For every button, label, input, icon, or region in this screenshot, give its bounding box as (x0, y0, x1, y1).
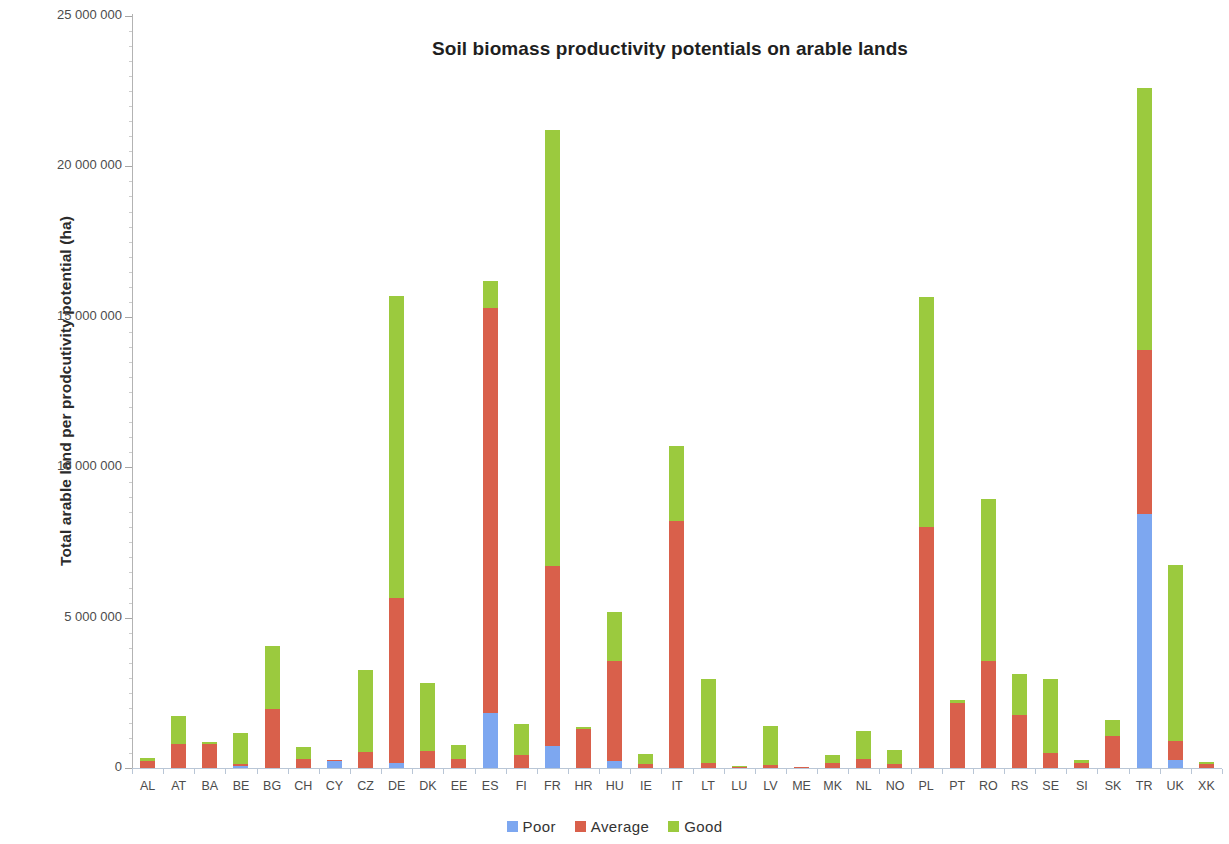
bar-column[interactable] (724, 16, 755, 768)
bar-column[interactable] (693, 16, 724, 768)
bar-column[interactable] (288, 16, 319, 768)
stacked-bar[interactable] (1105, 720, 1120, 768)
bar-segment-good[interactable] (1137, 88, 1152, 350)
stacked-bar[interactable] (950, 700, 965, 768)
bar-segment-good[interactable] (825, 755, 840, 763)
bar-segment-good[interactable] (1105, 720, 1120, 737)
stacked-bar[interactable] (1199, 762, 1214, 768)
bar-segment-good[interactable] (514, 724, 529, 756)
legend-item-poor[interactable]: Poor (507, 818, 556, 835)
bar-column[interactable] (1129, 16, 1160, 768)
bar-column[interactable] (1191, 16, 1222, 768)
bar-segment-poor[interactable] (389, 763, 404, 768)
stacked-bar[interactable] (732, 766, 747, 768)
stacked-bar[interactable] (981, 499, 996, 768)
bar-segment-average[interactable] (296, 759, 311, 768)
stacked-bar[interactable] (856, 731, 871, 768)
bar-segment-good[interactable] (451, 745, 466, 759)
bar-column[interactable] (537, 16, 568, 768)
bar-segment-good[interactable] (981, 499, 996, 661)
bar-segment-average[interactable] (358, 752, 373, 768)
bar-column[interactable] (1004, 16, 1035, 768)
stacked-bar[interactable] (451, 745, 466, 768)
stacked-bar[interactable] (669, 446, 684, 768)
bar-column[interactable] (568, 16, 599, 768)
bar-segment-good[interactable] (701, 679, 716, 762)
bar-segment-good[interactable] (420, 683, 435, 751)
bar-segment-average[interactable] (763, 765, 778, 768)
bar-segment-average[interactable] (1043, 753, 1058, 768)
stacked-bar[interactable] (296, 747, 311, 768)
bar-segment-average[interactable] (1105, 736, 1120, 768)
bar-segment-poor[interactable] (1137, 514, 1152, 768)
bar-segment-average[interactable] (1012, 715, 1027, 768)
bar-segment-good[interactable] (1043, 679, 1058, 753)
bar-column[interactable] (1035, 16, 1066, 768)
bar-column[interactable] (443, 16, 474, 768)
stacked-bar[interactable] (1074, 760, 1089, 768)
bar-segment-average[interactable] (638, 764, 653, 768)
bar-column[interactable] (630, 16, 661, 768)
bar-segment-average[interactable] (887, 764, 902, 768)
bar-segment-good[interactable] (669, 446, 684, 521)
bar-column[interactable] (163, 16, 194, 768)
bar-segment-average[interactable] (576, 729, 591, 768)
bar-segment-good[interactable] (483, 281, 498, 308)
bar-segment-good[interactable] (638, 754, 653, 765)
bar-column[interactable] (661, 16, 692, 768)
bar-segment-good[interactable] (919, 297, 934, 527)
stacked-bar[interactable] (420, 683, 435, 768)
bar-column[interactable] (225, 16, 256, 768)
stacked-bar[interactable] (171, 716, 186, 768)
bar-segment-poor[interactable] (545, 746, 560, 768)
bar-segment-good[interactable] (265, 646, 280, 709)
bar-segment-poor[interactable] (607, 761, 622, 768)
bar-segment-average[interactable] (794, 767, 809, 768)
stacked-bar[interactable] (327, 760, 342, 768)
bar-segment-poor[interactable] (1168, 760, 1183, 768)
bar-segment-good[interactable] (887, 750, 902, 764)
stacked-bar[interactable] (1168, 565, 1183, 768)
bar-segment-good[interactable] (1012, 674, 1027, 715)
bar-column[interactable] (319, 16, 350, 768)
stacked-bar[interactable] (265, 646, 280, 768)
bar-column[interactable] (194, 16, 225, 768)
bar-segment-good[interactable] (1168, 565, 1183, 741)
bar-column[interactable] (879, 16, 910, 768)
bar-segment-average[interactable] (171, 744, 186, 768)
bar-column[interactable] (1160, 16, 1191, 768)
bar-segment-average[interactable] (265, 709, 280, 768)
stacked-bar[interactable] (389, 296, 404, 768)
stacked-bar[interactable] (607, 612, 622, 768)
bar-column[interactable] (475, 16, 506, 768)
bar-segment-good[interactable] (607, 612, 622, 661)
bar-segment-average[interactable] (732, 767, 747, 768)
bar-column[interactable] (1097, 16, 1128, 768)
bar-segment-good[interactable] (856, 731, 871, 759)
bar-column[interactable] (755, 16, 786, 768)
bar-segment-good[interactable] (233, 733, 248, 764)
bar-segment-average[interactable] (514, 755, 529, 768)
bar-column[interactable] (942, 16, 973, 768)
bar-column[interactable] (786, 16, 817, 768)
bar-segment-good[interactable] (358, 670, 373, 753)
stacked-bar[interactable] (638, 754, 653, 768)
bar-column[interactable] (381, 16, 412, 768)
stacked-bar[interactable] (576, 727, 591, 768)
bar-segment-average[interactable] (1074, 763, 1089, 768)
bar-column[interactable] (911, 16, 942, 768)
stacked-bar[interactable] (825, 755, 840, 768)
bar-segment-average[interactable] (825, 763, 840, 768)
bar-column[interactable] (132, 16, 163, 768)
bar-column[interactable] (412, 16, 443, 768)
bar-segment-average[interactable] (919, 527, 934, 768)
stacked-bar[interactable] (1043, 679, 1058, 768)
bar-segment-average[interactable] (701, 763, 716, 768)
bar-segment-average[interactable] (202, 744, 217, 768)
stacked-bar[interactable] (545, 130, 560, 768)
bar-segment-poor[interactable] (233, 766, 248, 768)
stacked-bar[interactable] (763, 726, 778, 768)
bar-segment-average[interactable] (1168, 741, 1183, 761)
bar-segment-average[interactable] (545, 566, 560, 746)
bar-segment-good[interactable] (296, 747, 311, 759)
